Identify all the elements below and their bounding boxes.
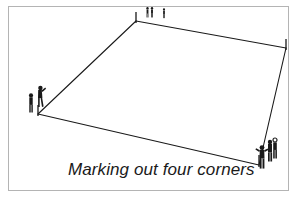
- people-group-top: [146, 7, 165, 18]
- person-left-a-icon: [29, 93, 33, 112]
- person-bottom-right-c-icon: [273, 138, 277, 159]
- person-top-a-icon: [146, 7, 148, 17]
- person-bottom-right-b-icon: [268, 140, 272, 162]
- person-left-b-icon: [38, 86, 46, 107]
- string-line-top-right: [136, 21, 286, 48]
- figure-root: Marking out four corners: [0, 0, 297, 201]
- person-top-b-icon: [151, 7, 153, 17]
- corner-stakes: [38, 12, 286, 167]
- string-line-top-left: [38, 21, 136, 114]
- line-drawing-canvas: [0, 0, 297, 201]
- plot-outline: [38, 21, 286, 165]
- string-line-bottom-left: [38, 114, 259, 165]
- person-top-c-icon: [163, 8, 165, 18]
